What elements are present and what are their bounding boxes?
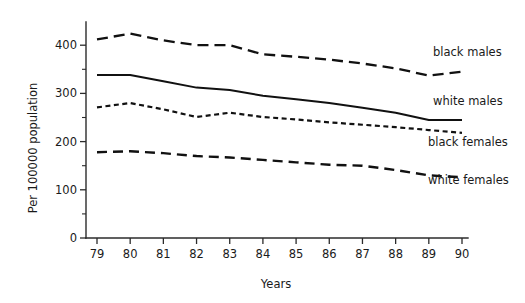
series-line-black-females bbox=[97, 103, 462, 133]
y-axis-tick-labels: 0100200300400 bbox=[55, 38, 77, 245]
x-axis-ticks bbox=[97, 238, 462, 244]
y-tick-label: 100 bbox=[55, 183, 77, 197]
series-inline-labels: black maleswhite malesblack femaleswhite… bbox=[428, 45, 509, 187]
y-axis-title: Per 100000 population bbox=[26, 83, 40, 214]
x-tick-label: 87 bbox=[355, 247, 370, 261]
x-axis-title: Years bbox=[260, 277, 291, 291]
series-line-white-males bbox=[97, 75, 462, 120]
y-tick-label: 400 bbox=[55, 38, 77, 52]
series-label-white-males: white males bbox=[433, 94, 503, 108]
x-tick-label: 90 bbox=[455, 247, 470, 261]
x-axis-tick-labels: 798081828384858687888990 bbox=[90, 247, 470, 261]
x-tick-label: 89 bbox=[421, 247, 436, 261]
x-tick-label: 83 bbox=[222, 247, 237, 261]
x-tick-label: 86 bbox=[322, 247, 337, 261]
x-tick-label: 79 bbox=[90, 247, 105, 261]
x-tick-label: 85 bbox=[289, 247, 304, 261]
series-label-black-females: black females bbox=[428, 135, 508, 149]
y-axis-ticks bbox=[80, 45, 86, 238]
series-label-black-males: black males bbox=[433, 45, 502, 59]
x-tick-label: 80 bbox=[123, 247, 138, 261]
chart-figure: 0100200300400 798081828384858687888990 b… bbox=[0, 0, 525, 303]
x-tick-label: 81 bbox=[156, 247, 171, 261]
y-tick-label: 200 bbox=[55, 135, 77, 149]
line-chart-canvas: 0100200300400 798081828384858687888990 b… bbox=[0, 0, 525, 303]
axes-group bbox=[86, 22, 468, 238]
x-tick-label: 88 bbox=[388, 247, 403, 261]
y-tick-label: 0 bbox=[70, 231, 77, 245]
series-label-white-females: white females bbox=[428, 173, 509, 187]
series-line-white-females bbox=[97, 151, 462, 177]
x-tick-label: 84 bbox=[256, 247, 271, 261]
series-paths-group bbox=[97, 34, 462, 178]
y-tick-label: 300 bbox=[55, 86, 77, 100]
x-tick-label: 82 bbox=[189, 247, 204, 261]
series-line-black-males bbox=[97, 34, 462, 76]
